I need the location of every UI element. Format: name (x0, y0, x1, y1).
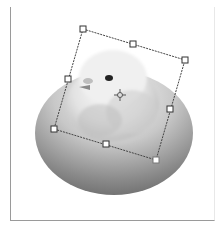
handle-bottom-middle[interactable] (103, 141, 109, 147)
handle-top-middle[interactable] (130, 41, 136, 47)
handle-middle-right[interactable] (167, 106, 173, 112)
chick-eye (105, 75, 113, 81)
handle-bottom-left[interactable] (51, 126, 57, 132)
handle-top-left[interactable] (80, 26, 86, 32)
canvas-stage[interactable] (0, 0, 222, 232)
handle-bottom-right[interactable] (153, 157, 159, 163)
handle-middle-left[interactable] (65, 76, 71, 82)
handle-top-right[interactable] (182, 57, 188, 63)
chick-image (67, 50, 159, 144)
